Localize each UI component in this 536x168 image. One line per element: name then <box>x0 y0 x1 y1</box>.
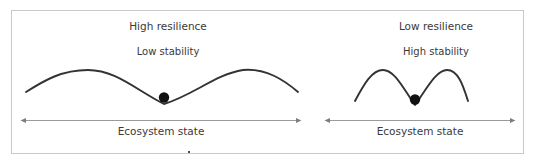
left-panel-axis-label: Ecosystem state <box>0 126 322 137</box>
right-panel-subtitle: High stability <box>336 47 536 57</box>
left-panel-subtitle: Low stability <box>0 47 336 57</box>
resilience-stability-figure: High resilience Low stability Ecosystem … <box>0 0 536 168</box>
right-panel-title: Low resilience <box>336 21 536 32</box>
right-panel-axis-label: Ecosystem state <box>328 126 512 137</box>
stray-dot-artifact <box>188 151 190 153</box>
left-panel-title: High resilience <box>0 21 336 32</box>
